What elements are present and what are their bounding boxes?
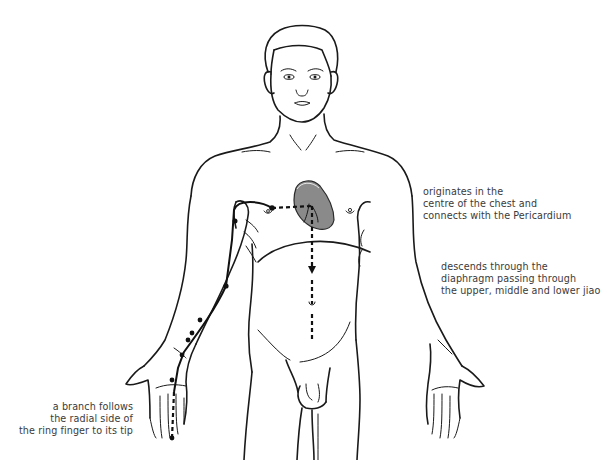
annotation-origin-line: centre of the chest and [423, 198, 571, 210]
annotation-descent-line: the upper, middle and lower jiao [441, 285, 600, 297]
anatomy-figure [0, 0, 609, 460]
annotation-branch-line: a branch follows [19, 401, 133, 413]
annotation-branch-line: the radial side of [19, 413, 133, 425]
annotation-branch-line: the ring finger to its tip [19, 425, 133, 437]
left-hand [126, 344, 196, 438]
head [264, 26, 338, 123]
annotation-branch: a branch follows the radial side of the … [19, 401, 133, 437]
annotation-origin-line: connects with the Pericardium [423, 210, 571, 222]
pericardium-organ [294, 181, 334, 229]
annotation-descent-line: diaphragm passing through [441, 273, 600, 285]
annotation-descent-line: descends through the [441, 261, 600, 273]
annotation-descent: descends through the diaphragm passing t… [441, 261, 600, 297]
annotation-origin: originates in the centre of the chest an… [423, 186, 571, 222]
torso [144, 114, 462, 460]
annotation-origin-line: originates in the [423, 186, 571, 198]
